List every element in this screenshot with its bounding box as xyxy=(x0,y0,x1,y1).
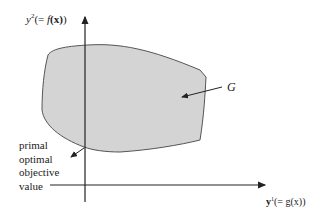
y-axis-label: y2(= f(x)) xyxy=(26,10,67,26)
annotation-line: value xyxy=(19,180,59,194)
y-axis-label-close: ) xyxy=(63,13,67,25)
region-g-label: G xyxy=(227,81,236,94)
y-axis-label-eq: (= xyxy=(34,13,47,25)
region-g xyxy=(42,45,206,152)
y-axis-label-arg: (x) xyxy=(50,13,63,25)
annotation-line: primal xyxy=(19,139,59,153)
x-axis-label-eq: (= g(x)) xyxy=(274,196,305,207)
annotation-line: optimal xyxy=(19,153,59,167)
primal-optimal-pointer-arrow xyxy=(71,148,84,157)
x-axis-label: y1(= g(x)) xyxy=(266,193,305,208)
annotation-line: objective xyxy=(19,166,59,180)
primal-optimal-annotation: primal optimal objective value xyxy=(19,139,59,193)
